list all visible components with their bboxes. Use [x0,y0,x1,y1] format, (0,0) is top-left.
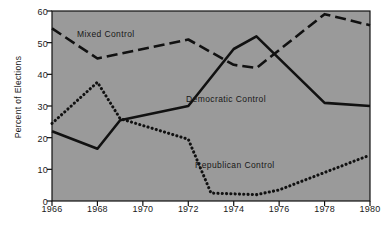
y-axis-ticks [47,11,52,201]
series-annotation-republican-control: Republican Control [195,160,275,170]
series-annotation-democratic-control: Democratic Control [186,94,266,104]
chart-figure: Percent of Elections 60 50 40 30 20 10 0… [0,0,384,231]
plot-canvas [0,0,384,231]
x-axis-ticks [52,201,370,206]
series-annotation-mixed-control: Mixed Control [77,29,135,39]
